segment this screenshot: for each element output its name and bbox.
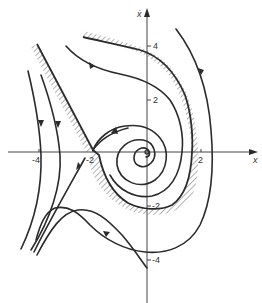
y-tick-2: 2: [147, 95, 158, 105]
x-tick-neg4: -4: [32, 149, 40, 165]
x-axis: [8, 149, 258, 155]
svg-text:4: 4: [153, 41, 158, 51]
y-axis-arrow-icon: [144, 8, 150, 17]
x-tick-2: 2: [198, 149, 203, 165]
svg-text:-4: -4: [152, 255, 160, 265]
svg-text:2: 2: [198, 155, 203, 165]
y-tick-neg4: -4: [147, 255, 160, 265]
trajectory-outer-right: [36, 29, 212, 252]
y-axis-label: ẋ: [136, 9, 142, 19]
x-axis-label: x: [252, 155, 258, 165]
arrow-icon: [89, 62, 95, 69]
y-tick-4: 4: [147, 41, 158, 51]
phase-portrait-figure: x ẋ -4 -2 2 4 2 -2 -4: [0, 0, 262, 303]
svg-text:-4: -4: [32, 155, 40, 165]
trajectory-lower-left: [37, 210, 147, 268]
svg-text:2: 2: [153, 95, 158, 105]
